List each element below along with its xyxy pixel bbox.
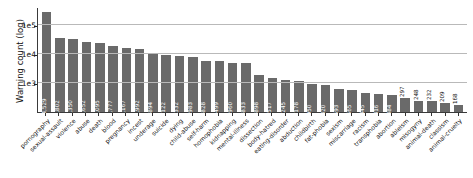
gridline — [38, 53, 467, 54]
x-tick-slot — [66, 113, 79, 116]
x-tick-mark — [152, 113, 153, 116]
bar[interactable]: 264,529 — [42, 12, 52, 112]
bar[interactable]: 565 — [347, 90, 357, 112]
x-tick-mark — [445, 113, 446, 116]
x-tick-mark — [365, 113, 366, 116]
x-tick-slot — [212, 113, 225, 116]
bar-value-label: 232 — [426, 90, 432, 101]
x-tick-mark — [165, 113, 166, 116]
bar[interactable]: 1,245 — [281, 80, 291, 112]
x-tick-slot — [359, 113, 372, 116]
x-tick-slot — [172, 113, 185, 116]
bar[interactable]: 4,960 — [228, 63, 238, 112]
x-tick-slot — [132, 113, 145, 116]
x-tick-mark — [298, 113, 299, 116]
bar[interactable]: 32,350 — [68, 39, 78, 112]
bar[interactable]: 416 — [374, 94, 384, 112]
x-tick-mark — [325, 113, 326, 116]
bar[interactable]: 1,178 — [294, 81, 304, 112]
gridline — [38, 24, 467, 25]
x-tick-mark — [418, 113, 419, 116]
x-tick-slot — [106, 113, 119, 116]
bar[interactable]: 34,802 — [55, 38, 65, 112]
x-tick-slot — [345, 113, 358, 116]
y-axis-title: Warning count (log) — [13, 2, 27, 120]
x-tick-slot — [425, 113, 438, 116]
x-tick-slot — [146, 113, 159, 116]
bar[interactable]: 820 — [321, 85, 331, 112]
bar-value-label: 209 — [439, 91, 445, 102]
bar[interactable]: 14,992 — [135, 49, 145, 112]
x-tick-slot — [398, 113, 411, 116]
x-axis-labels: pornographysexual-assaultviolenceabusede… — [37, 117, 467, 178]
x-tick-slot — [438, 113, 451, 116]
x-tick-slot — [305, 113, 318, 116]
x-tick-mark — [378, 113, 379, 116]
y-tick-label: 1e5 — [14, 22, 36, 30]
bar[interactable]: 18,777 — [108, 46, 118, 112]
bar[interactable]: 1,898 — [254, 75, 264, 112]
x-tick-slot — [319, 113, 332, 116]
x-tick-slot — [225, 113, 238, 116]
bar[interactable]: 9,894 — [148, 54, 158, 112]
x-tick-slot — [372, 113, 385, 116]
bar[interactable]: 297 — [400, 98, 410, 112]
plot-area: 264,52934,80232,35024,65223,09518,77715,… — [37, 8, 467, 113]
y-tick-label: 1e4 — [14, 51, 36, 59]
x-tick-slot — [79, 113, 92, 116]
bar[interactable]: 168 — [454, 105, 464, 112]
bar[interactable]: 15,167 — [122, 48, 132, 112]
bar-chart-figure: Warning count (log) 1e31e41e5 264,52934,… — [0, 0, 473, 178]
x-tick-mark — [112, 113, 113, 116]
x-tick-slot — [185, 113, 198, 116]
x-tick-mark — [178, 113, 179, 116]
x-tick-mark — [45, 113, 46, 116]
x-tick-slot — [265, 113, 278, 116]
x-tick-slot — [292, 113, 305, 116]
x-tick-mark — [285, 113, 286, 116]
bar[interactable]: 7,983 — [188, 57, 198, 112]
x-tick-slot — [412, 113, 425, 116]
x-tick-mark — [218, 113, 219, 116]
bar[interactable]: 248 — [414, 101, 424, 112]
x-tick-mark — [85, 113, 86, 116]
bar[interactable]: 9,122 — [161, 55, 171, 112]
bar[interactable]: 445 — [361, 93, 371, 112]
bar[interactable]: 4,833 — [241, 63, 251, 112]
bar[interactable]: 384 — [387, 95, 397, 112]
bar[interactable]: 5,828 — [201, 61, 211, 112]
x-tick-mark — [245, 113, 246, 116]
x-tick-slot — [159, 113, 172, 116]
bar[interactable]: 8,332 — [175, 56, 185, 112]
bar[interactable]: 232 — [427, 101, 437, 112]
x-tick-slot — [279, 113, 292, 116]
bar-value-label: 168 — [452, 94, 458, 105]
x-label-slot: animal-cruelty — [452, 117, 465, 178]
x-tick-mark — [271, 113, 272, 116]
y-tick-label: 1e3 — [14, 80, 36, 88]
x-tick-mark — [72, 113, 73, 116]
bar-value-label: 248 — [413, 89, 419, 100]
x-tick-slot — [239, 113, 252, 116]
gridline — [38, 82, 467, 83]
bar[interactable]: 209 — [440, 103, 450, 112]
x-tick-slot — [452, 113, 465, 116]
x-tick-mark — [192, 113, 193, 116]
bar[interactable]: 950 — [307, 84, 317, 113]
x-axis-tickmarks — [37, 113, 467, 116]
x-tick-mark — [458, 113, 459, 116]
x-tick-slot — [199, 113, 212, 116]
bar-value-label: 297 — [399, 87, 405, 98]
x-tick-mark — [431, 113, 432, 116]
x-tick-slot — [39, 113, 52, 116]
bar[interactable]: 5,499 — [215, 61, 225, 112]
bar[interactable]: 593 — [334, 89, 344, 112]
